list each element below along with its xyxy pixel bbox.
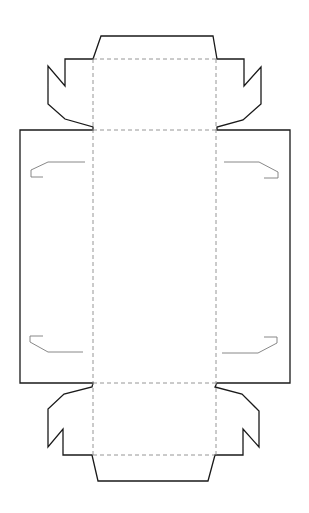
slot-bottom-right	[222, 337, 277, 353]
slot-bottom-left	[30, 336, 83, 352]
slot-top-right	[224, 162, 278, 178]
outer-cut-line	[20, 36, 290, 481]
box-dieline-diagram	[0, 0, 309, 513]
slot-top-left	[31, 162, 85, 177]
